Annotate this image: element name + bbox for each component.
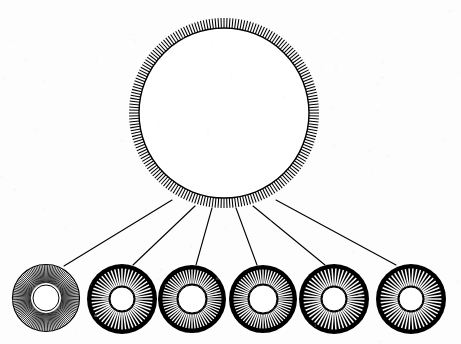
radial-spoke-diagram <box>0 0 461 344</box>
hub-spoke <box>229 18 230 28</box>
hub-spoke <box>129 118 139 119</box>
ring-1[interactable] <box>12 264 80 332</box>
ring-4[interactable] <box>229 265 297 333</box>
ring-spoke <box>335 269 336 286</box>
ring-spoke <box>412 312 413 329</box>
ring-spoke <box>332 312 333 329</box>
ring-spoke <box>332 269 333 286</box>
ring-spoke <box>335 312 336 329</box>
figure-canvas <box>0 0 461 344</box>
hub-spoke <box>229 198 230 208</box>
ring-spoke <box>409 269 410 286</box>
ring-3[interactable] <box>158 265 226 333</box>
ring-5[interactable] <box>299 264 369 334</box>
hub-spoke <box>309 118 319 119</box>
ring-spoke <box>412 269 413 286</box>
ring-6[interactable] <box>376 264 446 334</box>
hub-spoke <box>218 18 219 28</box>
hub-layer <box>129 18 319 208</box>
hub-spoke <box>129 107 139 108</box>
hub-spoke <box>309 107 319 108</box>
ring-2[interactable] <box>87 264 157 334</box>
large-spoked-circle <box>129 18 319 208</box>
ring-spoke <box>409 312 410 329</box>
hub-spoke <box>218 198 219 208</box>
